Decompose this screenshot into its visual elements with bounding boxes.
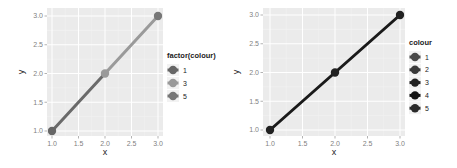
legend-key-point: [169, 66, 177, 74]
x-tick-label: 1.5: [298, 140, 308, 147]
y-tick-label: 3.0: [33, 12, 43, 19]
y-axis-title: y: [16, 69, 26, 74]
y-tick-label: 2.0: [33, 70, 43, 77]
x-tick-label: 1.0: [47, 140, 57, 147]
x-tick-label: 2.5: [363, 140, 373, 147]
x-tick-label: 2.0: [100, 140, 110, 147]
x-tick-label: 2.0: [330, 140, 340, 147]
data-point: [154, 12, 162, 20]
x-tick-label: 3.0: [395, 140, 405, 147]
legend-label: 1: [425, 54, 429, 61]
data-point: [48, 127, 56, 135]
x-axis-title: x: [103, 147, 108, 157]
y-tick-label: 3.0: [249, 11, 259, 18]
y-axis-title: y: [231, 69, 241, 74]
x-tick-label: 1.0: [265, 140, 275, 147]
x-tick-label: 2.5: [127, 140, 137, 147]
legend-key-point: [411, 78, 419, 86]
chart-canvas: 1.01.52.02.53.01.01.52.02.53.0xyfactor(c…: [0, 0, 457, 168]
y-tick-label: 1.5: [249, 98, 259, 105]
data-point: [101, 69, 109, 77]
plot-left: 1.01.52.02.53.01.01.52.02.53.0xyfactor(c…: [16, 8, 216, 157]
legend-label: 5: [425, 105, 429, 112]
legend-label: 1: [183, 67, 187, 74]
legend-label: 2: [425, 66, 429, 73]
data-point: [266, 126, 274, 134]
legend: colour12345: [409, 38, 432, 114]
legend-key-point: [411, 66, 419, 74]
legend-key-point: [411, 104, 419, 112]
y-tick-label: 2.5: [249, 40, 259, 47]
y-tick-label: 1.0: [33, 127, 43, 134]
x-tick-label: 1.5: [74, 140, 84, 147]
data-point: [396, 11, 404, 19]
y-tick-label: 1.5: [33, 99, 43, 106]
data-point: [331, 68, 339, 76]
y-tick-label: 2.5: [33, 41, 43, 48]
x-axis-title: x: [332, 147, 337, 157]
y-tick-label: 1.0: [249, 126, 259, 133]
legend-label: 5: [183, 93, 187, 100]
x-tick-label: 3.0: [153, 140, 163, 147]
plot-right: 1.01.52.02.53.01.01.52.02.53.0xycolour12…: [231, 8, 432, 157]
legend-label: 3: [183, 80, 187, 87]
legend: factor(colour)135: [167, 51, 216, 102]
legend-title: factor(colour): [167, 51, 216, 60]
y-tick-label: 2.0: [249, 69, 259, 76]
legend-title: colour: [409, 38, 432, 47]
legend-label: 4: [425, 92, 429, 99]
legend-label: 3: [425, 79, 429, 86]
legend-key-point: [169, 92, 177, 100]
legend-key-point: [411, 53, 419, 61]
legend-key-point: [411, 91, 419, 99]
legend-key-point: [169, 79, 177, 87]
